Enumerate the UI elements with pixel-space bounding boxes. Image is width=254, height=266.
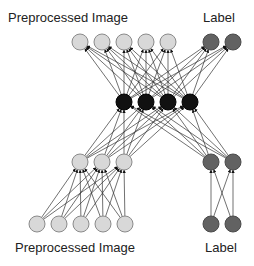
edge [37, 169, 75, 224]
edge [81, 170, 99, 224]
edge [190, 49, 228, 103]
image-node [95, 216, 111, 232]
edge [59, 168, 118, 225]
edge [80, 107, 161, 163]
edge [173, 109, 211, 163]
image-node [117, 216, 133, 232]
edge [37, 167, 118, 224]
bottom-label-label: Label [205, 240, 237, 255]
edge [153, 107, 233, 163]
image-node [94, 34, 110, 50]
edge [195, 109, 233, 163]
edge [131, 106, 233, 162]
image-node [72, 34, 88, 50]
image-node [94, 154, 110, 170]
edge [59, 169, 97, 224]
edge [80, 106, 183, 162]
edge [103, 170, 121, 224]
image-node [72, 154, 88, 170]
label-node [203, 154, 219, 170]
edge [108, 47, 168, 102]
hidden-node [116, 94, 132, 110]
image-node [73, 216, 89, 232]
image-node [138, 34, 154, 50]
top-image-label: Preprocessed Image [8, 10, 128, 25]
bottom-image-label: Preprocessed Image [15, 240, 135, 255]
diagram-canvas: Preprocessed Image Label Preprocessed Im… [0, 0, 254, 266]
edge [211, 170, 230, 225]
edge [124, 107, 184, 162]
label-node [225, 154, 241, 170]
edge [214, 170, 233, 225]
label-node [203, 34, 219, 50]
network-graph [0, 0, 254, 266]
edge [37, 168, 96, 225]
image-node [160, 34, 176, 50]
label-node [203, 216, 219, 232]
edge [152, 107, 211, 162]
edge [105, 170, 125, 225]
hidden-node [182, 94, 198, 110]
image-node [29, 216, 45, 232]
label-node [225, 216, 241, 232]
edge [80, 107, 140, 162]
edge [168, 47, 227, 102]
edge [102, 107, 162, 162]
image-node [116, 154, 132, 170]
top-label-label: Label [203, 10, 235, 25]
label-node [225, 34, 241, 50]
hidden-node [160, 94, 176, 110]
hidden-node [138, 94, 154, 110]
image-node [116, 34, 132, 50]
edges [37, 46, 233, 224]
edge [86, 47, 146, 102]
image-node [51, 216, 67, 232]
